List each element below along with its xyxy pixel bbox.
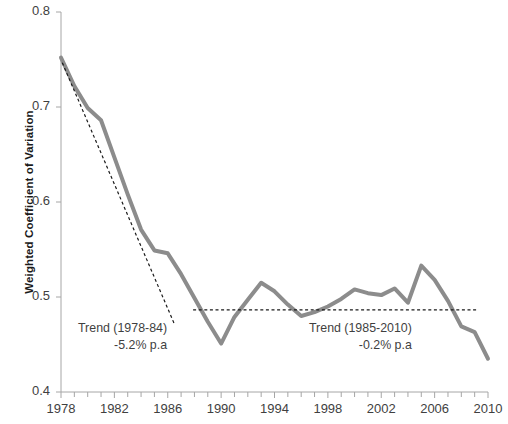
x-axis-tick-label: 1994	[252, 401, 298, 416]
trend-1985-2010-label-line-1: Trend (1985-2010)	[309, 320, 412, 337]
x-axis-tick-label: 1978	[38, 401, 84, 416]
x-axis-tick-label: 1998	[305, 401, 351, 416]
x-axis-tick-label: 1982	[91, 401, 137, 416]
y-axis-tick-label: 0.8	[16, 3, 50, 18]
x-axis-tick-label: 2002	[358, 401, 404, 416]
trend-1978-84-label-line-2: -5.2% p.a	[78, 337, 167, 354]
x-axis-tick-label: 1986	[145, 401, 191, 416]
chart-plot-area	[0, 0, 508, 424]
trend-1978-84-label-line-1: Trend (1978-84)	[78, 320, 167, 337]
trend-1978-84-label: Trend (1978-84)-5.2% p.a	[78, 320, 167, 353]
x-axis-tick-label: 1990	[198, 401, 244, 416]
series-line-trend-1978-84	[62, 63, 174, 324]
y-axis-tick-label: 0.5	[16, 288, 50, 303]
chart-container: Weighted Coefficient of Variation 0.40.5…	[0, 0, 508, 424]
x-axis-tick-label: 2006	[412, 401, 458, 416]
y-axis-tick-label: 0.6	[16, 193, 50, 208]
series-group	[61, 58, 488, 359]
x-axis-tick-label: 2010	[465, 401, 508, 416]
y-axis-tick-label: 0.7	[16, 98, 50, 113]
trend-1985-2010-label: Trend (1985-2010)-0.2% p.a	[309, 320, 412, 353]
trend-1985-2010-label-line-2: -0.2% p.a	[309, 337, 412, 354]
y-axis-tick-label: 0.4	[16, 383, 50, 398]
